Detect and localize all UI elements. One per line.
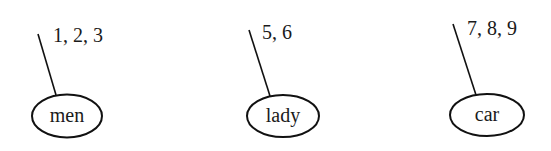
annotation-car: 7, 8, 9 xyxy=(467,17,517,39)
tree-car: car 7, 8, 9 xyxy=(450,17,524,136)
node-label-men: men xyxy=(50,104,84,126)
node-label-car: car xyxy=(475,103,500,125)
tree-diagram: men 1, 2, 3 lady 5, 6 car 7, 8, 9 xyxy=(0,0,551,151)
annotation-men: 1, 2, 3 xyxy=(53,24,103,46)
annotation-lady: 5, 6 xyxy=(262,21,292,43)
node-label-lady: lady xyxy=(266,104,300,127)
tree-lady: lady 5, 6 xyxy=(247,21,319,137)
tree-men: men 1, 2, 3 xyxy=(32,24,103,138)
